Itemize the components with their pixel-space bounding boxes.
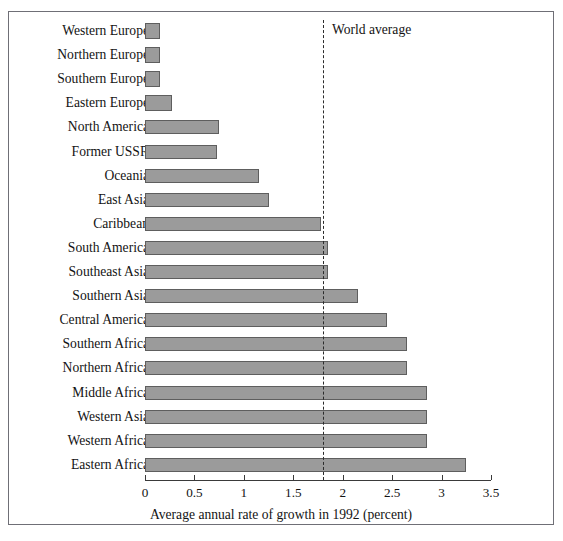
bar-row: East Asia xyxy=(9,188,553,212)
cut-off-caption-sliver xyxy=(0,0,563,9)
bar-category-label: Oceania xyxy=(104,169,149,183)
x-axis-tick-label: 2 xyxy=(339,485,346,501)
world-average-label: World average xyxy=(332,22,411,38)
x-axis-tick xyxy=(491,475,492,480)
x-axis-title: Average annual rate of growth in 1992 (p… xyxy=(9,507,553,523)
bar-category-label: Western Asia xyxy=(77,410,149,424)
x-axis-tick-label: 1.5 xyxy=(285,485,301,501)
bar xyxy=(145,169,259,183)
bar-category-label: Western Europe xyxy=(62,24,149,38)
bar xyxy=(145,434,427,448)
x-axis-tick xyxy=(343,475,344,480)
bar-category-label: Central America xyxy=(60,313,149,327)
bar-row: Oceania xyxy=(9,164,553,188)
x-axis-tick xyxy=(293,475,294,480)
x-axis-line xyxy=(145,480,491,481)
bar xyxy=(145,95,172,111)
bar xyxy=(145,361,407,375)
x-axis-tick xyxy=(442,475,443,480)
x-axis-tick xyxy=(145,475,146,480)
bar-row: Northern Africa xyxy=(9,356,553,380)
bar-category-label: Middle Africa xyxy=(72,386,149,400)
bar-row: Caribbean xyxy=(9,212,553,236)
x-axis-tick-label: 2.5 xyxy=(384,485,400,501)
bar xyxy=(145,23,160,39)
bar xyxy=(145,386,427,400)
bar xyxy=(145,120,219,134)
bar xyxy=(145,71,160,87)
bar-category-label: South America xyxy=(68,241,149,255)
bar-row: Middle Africa xyxy=(9,381,553,405)
bar xyxy=(145,265,328,279)
bar-row: Southern Asia xyxy=(9,284,553,308)
bar-category-label: Southern Asia xyxy=(72,289,149,303)
bar-category-label: Southern Africa xyxy=(63,338,149,352)
x-axis-tick-label: 0 xyxy=(142,485,149,501)
bar-category-label: Western Africa xyxy=(67,434,149,448)
x-axis-tick xyxy=(194,475,195,480)
world-average-line xyxy=(323,20,324,480)
bar-category-label: Southern Europe xyxy=(57,72,149,86)
bar-category-label: North America xyxy=(68,121,149,135)
x-axis-tick-label: 0.5 xyxy=(186,485,202,501)
x-axis-tick xyxy=(392,475,393,480)
bar-row: Western Africa xyxy=(9,429,553,453)
bar-category-label: East Asia xyxy=(98,193,149,207)
bar-row: Eastern Africa xyxy=(9,453,553,477)
bar xyxy=(145,289,358,303)
bar-row: Eastern Europe xyxy=(9,91,553,115)
bar-row: Western Asia xyxy=(9,405,553,429)
bar-category-label: Eastern Africa xyxy=(71,458,149,472)
bar-category-label: Former USSR xyxy=(72,145,149,159)
bar-row: Northern Europe xyxy=(9,43,553,67)
bar xyxy=(145,337,407,351)
chart-plot-area: Western EuropeNorthern EuropeSouthern Eu… xyxy=(9,12,553,524)
bar-row: South America xyxy=(9,236,553,260)
bar xyxy=(145,410,427,424)
bar-category-label: Northern Europe xyxy=(57,48,149,62)
bar-row: Southern Europe xyxy=(9,67,553,91)
bar-category-label: Northern Africa xyxy=(63,362,149,376)
x-axis-tick-label: 3.5 xyxy=(483,485,499,501)
bar-row: Western Europe xyxy=(9,19,553,43)
bar-row: Former USSR xyxy=(9,140,553,164)
bar xyxy=(145,241,328,255)
figure-frame: Western EuropeNorthern EuropeSouthern Eu… xyxy=(8,11,554,525)
bar xyxy=(145,217,321,231)
x-axis-tick-label: 3 xyxy=(438,485,445,501)
x-axis-tick-label: 1 xyxy=(241,485,248,501)
bar xyxy=(145,458,466,472)
bar-row: Central America xyxy=(9,308,553,332)
bar-row: Southern Africa xyxy=(9,332,553,356)
bar-row: Southeast Asia xyxy=(9,260,553,284)
bar xyxy=(145,145,217,159)
bar xyxy=(145,193,269,207)
bar-row: North America xyxy=(9,115,553,139)
bar-category-label: Eastern Europe xyxy=(66,97,149,111)
bar-category-label: Caribbean xyxy=(93,217,149,231)
x-axis-tick xyxy=(244,475,245,480)
bar-category-label: Southeast Asia xyxy=(69,265,149,279)
bar xyxy=(145,47,160,63)
bar xyxy=(145,313,387,327)
